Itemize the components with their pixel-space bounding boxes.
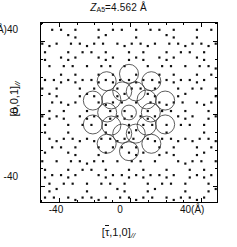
- cluster-ring-outer-decagon: [83, 91, 102, 110]
- x-tick-label-left: -40: [36, 205, 76, 215]
- y-tick-label-bottom: -40: [4, 172, 18, 182]
- x-tick-top: [112, 23, 113, 25]
- x-tick-bottom: [166, 200, 167, 202]
- x-tick-label-right: 40(Å): [180, 205, 237, 215]
- y-axis-title-text: [0,0,1]: [8, 86, 20, 117]
- y-tick-label-top: (Å)40: [0, 25, 18, 35]
- title-subscript: A5: [97, 6, 106, 13]
- x-tick-bottom: [148, 200, 149, 202]
- title-unit: Å: [140, 2, 147, 13]
- x-tick-bottom: [41, 200, 42, 202]
- cluster-ring-outer-decagon: [156, 91, 175, 110]
- y-tick-left: [41, 23, 43, 24]
- x-tick-top: [148, 23, 149, 25]
- cluster-ring-outer-decagon: [97, 72, 116, 91]
- x-tick-label-zero: 0: [110, 205, 130, 215]
- x-tick-top: [166, 23, 167, 25]
- y-tick-left: [41, 168, 43, 169]
- y-tick-left: [41, 41, 45, 42]
- y-tick-right: [215, 59, 217, 60]
- x-tick-top: [130, 23, 131, 27]
- y-tick-left: [41, 150, 43, 151]
- y-tick-left: [41, 186, 45, 187]
- x-axis-parallel-marker: //: [131, 231, 135, 240]
- decagonal-cluster-overlay: [41, 23, 217, 202]
- y-tick-right: [215, 150, 217, 151]
- y-tick-left: [41, 132, 43, 133]
- y-tick-right: [213, 186, 217, 187]
- y-axis-title: [0,0,1]//: [8, 59, 22, 139]
- cluster-ring-outer-decagon: [83, 115, 102, 134]
- x-axis-tau-overbar: τ: [105, 226, 109, 238]
- x-axis-indices: ,1,0]: [109, 226, 130, 238]
- y-tick-left: [41, 114, 45, 115]
- x-tick-top: [59, 23, 60, 27]
- y-tick-right: [215, 132, 217, 133]
- x-tick-top: [94, 23, 95, 25]
- y-tick-left: [41, 95, 43, 96]
- y-tick-right: [215, 168, 217, 169]
- chart-title: ZA5=4.562 Å: [0, 2, 237, 13]
- x-tick-bottom: [59, 198, 60, 202]
- plot-area: [40, 22, 218, 203]
- y-axis-parallel-marker: //: [13, 81, 22, 85]
- x-axis-title: [τ,1,0]//: [0, 226, 237, 240]
- x-tick-bottom: [130, 198, 131, 202]
- x-tick-bottom: [112, 200, 113, 202]
- ring-cluster-group: [83, 64, 174, 160]
- x-tick-top: [201, 23, 202, 27]
- y-tick-right: [215, 23, 217, 24]
- cluster-ring-outer-decagon: [119, 64, 138, 83]
- cluster-ring-outer-decagon: [97, 134, 116, 153]
- title-value: 4.562: [111, 2, 137, 13]
- cluster-ring-outer-decagon: [142, 72, 161, 91]
- y-tick-left: [41, 59, 43, 60]
- x-tick-bottom: [77, 200, 78, 202]
- x-tick-bottom: [201, 198, 202, 202]
- quasicrystal-structure-figure: ZA5=4.562 Å (Å)40 0 -40 -40 0 40(Å) [0,0…: [0, 0, 237, 247]
- cluster-ring-outer-decagon: [142, 134, 161, 153]
- cluster-ring-outer-decagon: [119, 142, 138, 161]
- x-tick-top: [77, 23, 78, 25]
- y-tick-right: [215, 95, 217, 96]
- y-tick-right: [213, 41, 217, 42]
- y-tick-left: [41, 77, 43, 78]
- y-tick-right: [215, 77, 217, 78]
- cluster-ring-center: [122, 105, 137, 120]
- y-tick-right: [213, 114, 217, 115]
- x-tick-top: [183, 23, 184, 25]
- x-tick-bottom: [94, 200, 95, 202]
- cluster-ring-outer-decagon: [156, 115, 175, 134]
- x-tick-bottom: [183, 200, 184, 202]
